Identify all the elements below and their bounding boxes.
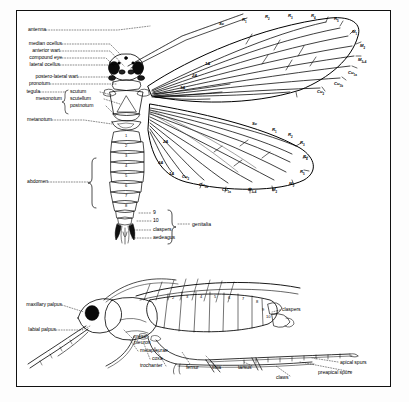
label-scutum: scutum (70, 89, 86, 95)
label-trochanter: trochanter (140, 363, 162, 369)
label-preapical-spurs: preapical spurs (318, 370, 352, 376)
label-postnotum: postnotum (70, 103, 93, 109)
abdomen-segment-number: 2 (125, 144, 127, 148)
vein-label-2a-fore: 2A (192, 74, 197, 78)
abdomen-segment-number: 7 (125, 194, 127, 198)
vein-label-r5-hind: R5 (300, 170, 305, 176)
abdomen-segment-number: 3 (125, 154, 127, 158)
vein-label-3a-fore: 3A (180, 86, 185, 90)
abdomen-segment-number: 6 (125, 184, 127, 188)
vein-label-sc-hind: Sc (252, 122, 257, 126)
vein-label-m2-fore: M2 (360, 44, 365, 50)
vein-label-m34-fore: M3+4 (358, 58, 366, 64)
vein-label-1a-fore: 1A (205, 62, 210, 66)
abdomen-segment-number: 1 (125, 134, 127, 138)
plate-border-frame (16, 10, 391, 387)
vein-label-3a-hind: 3A (158, 161, 163, 165)
abdomen-segment-number: 8 (125, 204, 127, 208)
label-antenna: antenna (0, 27, 46, 33)
label-segment-9: 9 (153, 210, 156, 216)
label-apical-spurs: apical spurs (340, 360, 367, 366)
label-metanotum: metanotum (0, 117, 52, 123)
vein-label-1a-hind: 1A (169, 172, 174, 176)
label-tarsus: tarsus (238, 365, 252, 371)
label-coxa: coxa (152, 356, 163, 362)
lateral-segment-number: 10 (266, 315, 270, 319)
vein-label-r3-hind: R3 (300, 141, 305, 147)
label-mesonotum: mesonotum (0, 96, 62, 102)
vein-label-2a-hind: 2A (163, 140, 168, 144)
label-maxillary-palpus: maxillary palpus (0, 302, 62, 308)
lateral-segment-number: 6 (228, 296, 230, 300)
lateral-segment-number: 9 (262, 308, 264, 312)
vein-label-sc-fore: Sc (219, 22, 224, 26)
abdomen-segment-number: 4 (125, 164, 127, 168)
anatomy-plate: antenna median ocellus anterior wart com… (0, 0, 409, 402)
vein-label-m1-hind: M1 (289, 182, 294, 188)
label-claspers-lateral: claspers (282, 307, 301, 313)
vein-label-r1-hind: R1 (272, 128, 277, 134)
vein-label-r2-fore: R2 (265, 15, 270, 21)
vein-label-r3-fore: R3 (288, 14, 293, 20)
label-anterior-wart: anterior wart (0, 48, 60, 54)
abdomen-segment-number: 5 (125, 174, 127, 178)
vein-label-r2-hind: R2 (288, 133, 293, 139)
label-mesopleuron-line2: pleuron (134, 340, 151, 346)
label-compound-eye: compound eye (0, 55, 62, 61)
vein-label-m34-hind: M3+4 (248, 188, 256, 194)
label-lateral-ocellus: lateral ocellus (0, 62, 60, 68)
label-segment-10: 10 (153, 218, 159, 224)
vein-label-r5-fore: R5 (334, 17, 339, 23)
label-labial-palpus: labial palpus (0, 327, 56, 333)
vein-label-cu1b-fore: Cu1b (334, 82, 343, 88)
label-metapleurae: metapleurae (140, 348, 168, 354)
label-claws: claws (276, 375, 289, 381)
lateral-segment-number: 8 (256, 300, 258, 304)
vein-label-r1-fore: R1 (242, 18, 247, 24)
label-genitalia-group: genitalia (192, 221, 211, 227)
label-tegula: tegula (0, 89, 40, 95)
lateral-segment-number: 5 (214, 295, 216, 299)
vein-label-m2-hind: M2 (272, 188, 277, 194)
lateral-segment-number: 2 (172, 296, 174, 300)
lateral-segment-number: 4 (200, 295, 202, 299)
lateral-segment-number: 7 (242, 297, 244, 301)
vein-label-cu2-hind: Cu2 (182, 175, 189, 181)
label-claspers-dorsal: claspers (153, 227, 172, 233)
vein-label-cu1a-fore: Cu1a (348, 71, 357, 77)
label-tibia: tibia (212, 365, 221, 371)
label-scutellum: scutellum (70, 96, 91, 102)
lateral-segment-number: 3 (186, 295, 188, 299)
label-postero-lateral-wart: postero-lateral wart (0, 74, 78, 80)
label-abdomen: abdomen (0, 179, 48, 185)
vein-label-cu1b-hind: Cu1b (199, 183, 208, 189)
label-pronotum: pronotum (0, 81, 50, 87)
vein-label-r4-fore: R4 (311, 14, 316, 20)
vein-label-cu2-fore: Cu2 (317, 90, 324, 96)
label-femur: femur (186, 365, 199, 371)
vein-label-cu1a-hind: Cu1a (222, 188, 231, 194)
vein-label-r4-hind: R4 (303, 155, 308, 161)
label-aedeagus: aedeagus (153, 235, 175, 241)
vein-label-m1-fore: M1 (352, 30, 357, 36)
label-median-ocellus: median ocellus (0, 41, 62, 47)
